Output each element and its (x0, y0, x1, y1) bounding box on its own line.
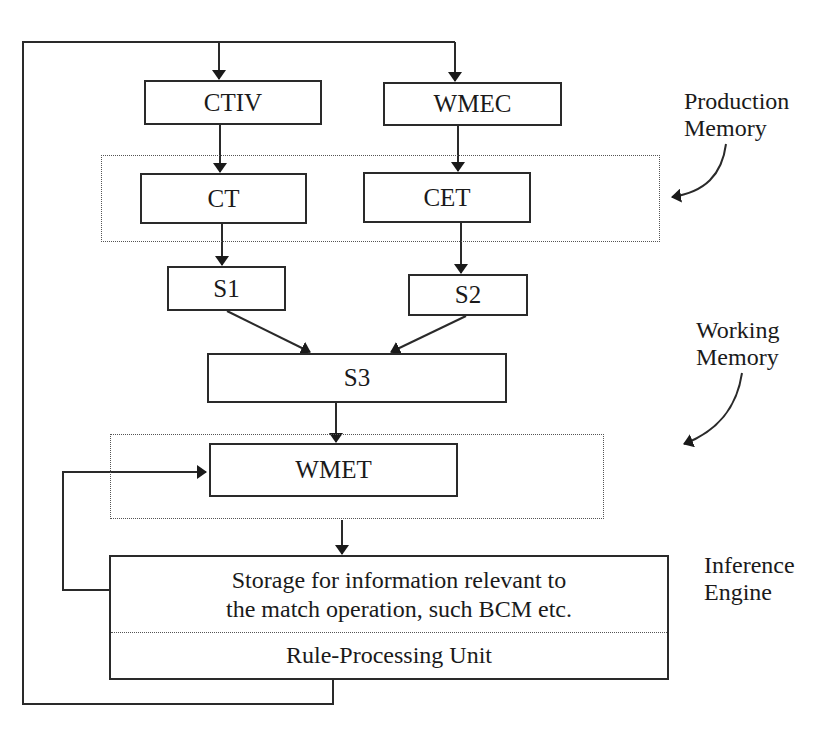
arrow-s2-s3 (391, 316, 466, 352)
storage-line-1: Storage for information relevant to (232, 566, 567, 595)
working-memory-pointer (684, 373, 742, 444)
node-cet: CET (363, 172, 531, 223)
node-s1: S1 (167, 266, 286, 311)
arrow-s1-s3 (227, 311, 310, 352)
production-memory-pointer (672, 144, 726, 197)
node-ctiv: CTIV (144, 80, 322, 125)
inference-engine-box: Storage for information relevant to the … (109, 555, 669, 680)
production-memory-line-2: Memory (684, 115, 789, 142)
production-memory-line-1: Production (684, 88, 789, 115)
rule-processing-unit: Rule-Processing Unit (111, 633, 667, 678)
working-memory-label: Working Memory (696, 317, 779, 371)
node-s2: S2 (408, 274, 528, 316)
node-wmet: WMET (209, 443, 458, 497)
working-memory-line-2: Memory (696, 344, 779, 371)
node-wmec: WMEC (383, 82, 562, 126)
production-memory-label: Production Memory (684, 88, 789, 142)
rule-unit-label: Rule-Processing Unit (286, 642, 492, 669)
inference-engine-label: Inference Engine (704, 552, 795, 606)
inference-engine-line-1: Inference (704, 552, 795, 579)
inference-engine-line-2: Engine (704, 579, 795, 606)
node-s3: S3 (207, 353, 507, 403)
node-ct: CT (140, 173, 307, 224)
working-memory-line-1: Working (696, 317, 779, 344)
storage-section: Storage for information relevant to the … (111, 557, 667, 633)
storage-line-2: the match operation, such BCM etc. (226, 595, 572, 624)
